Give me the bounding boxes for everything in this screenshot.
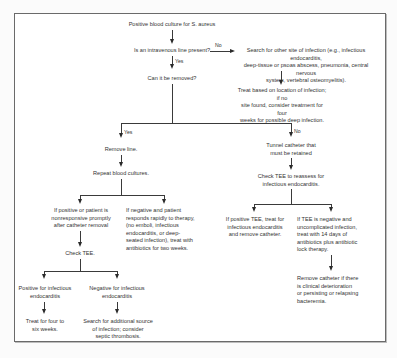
arrow-down-icon	[170, 39, 174, 44]
node-repeat-cultures: Repeat blood cultures.	[81, 170, 161, 178]
node-remove-line: Remove line.	[91, 146, 151, 154]
node-treat-based-location: Treat based on location of infection; if…	[236, 87, 328, 125]
arrow-down-icon	[279, 80, 283, 85]
node-treat-four-six: Treat for four to six weeks.	[17, 318, 73, 333]
arrow-down-icon	[115, 309, 119, 314]
connector-line	[172, 84, 173, 123]
label-no: No	[294, 128, 301, 134]
connector-line	[291, 189, 292, 204]
arrow-down-icon	[119, 162, 123, 167]
connector-line	[80, 259, 81, 271]
node-positive-tee-treat: If positive TEE, treat for infectious en…	[222, 216, 288, 239]
node-positive-ie: Positive for infectious endocarditis	[12, 285, 78, 300]
arrow-down-icon	[119, 133, 123, 138]
node-can-remove-question: Can it be removed?	[132, 75, 212, 83]
node-check-tee: Check TEE.	[55, 250, 105, 258]
node-iv-line-question: Is an intravenous line present?	[126, 47, 218, 55]
arrow-down-icon	[115, 274, 119, 279]
arrow-down-icon	[42, 274, 46, 279]
label-yes: Yes	[175, 58, 183, 64]
connector-line	[44, 271, 117, 272]
arrow-down-icon	[252, 207, 256, 212]
label-yes: Yes	[124, 129, 132, 135]
node-negative-tee-uncomplicated: If TEE is negative and uncomplicated inf…	[297, 216, 373, 254]
node-positive-nonresponsive: If positive or patient is nonresponsive …	[44, 207, 118, 230]
arrow-down-icon	[289, 165, 293, 170]
arrow-down-icon	[42, 309, 46, 314]
arrow-down-icon	[329, 207, 333, 212]
arrow-down-icon	[329, 266, 333, 271]
node-check-tee-reassess: Check TEE to reassess for infectious end…	[251, 173, 331, 188]
label-no: No	[215, 42, 222, 48]
connector-line	[80, 195, 164, 196]
arrow-down-icon	[162, 199, 166, 204]
arrow-down-icon	[170, 64, 174, 69]
node-negative-responds: If negative and patient responds rapidly…	[126, 207, 208, 253]
arrow-down-icon	[78, 242, 82, 247]
arrow-down-icon	[289, 132, 293, 137]
connector-line	[254, 204, 332, 205]
node-remove-catheter-if: Remove catheter if there is clinical det…	[297, 275, 377, 305]
connector-line	[121, 123, 292, 124]
node-tunnel-catheter: Tunnel catheter that must be retained	[256, 142, 326, 157]
node-negative-ie: Negative for infectious endocarditis	[82, 285, 152, 300]
connector-line	[121, 179, 122, 195]
node-search-other-site: Search for other site of infection (e.g.…	[235, 47, 377, 85]
node-search-additional: Search for additional source of infectio…	[76, 318, 160, 341]
arrow-down-icon	[78, 199, 82, 204]
connector-line	[210, 51, 230, 52]
node-start: Positive blood culture for S. aureus	[112, 21, 232, 29]
